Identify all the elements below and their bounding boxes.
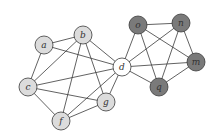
edge-c-g — [28, 87, 106, 102]
edge-f-d — [61, 67, 122, 121]
node-b: b — [74, 26, 92, 44]
node-label: c — [25, 82, 30, 92]
node-a: a — [35, 36, 53, 54]
edge-c-d — [28, 67, 122, 87]
node-label: b — [80, 30, 86, 40]
graph-diagram: abcfgdonmq — [0, 0, 222, 140]
node-g: g — [97, 93, 115, 111]
node-f: f — [52, 112, 70, 130]
edge-m-d — [122, 62, 196, 67]
node-label: o — [135, 20, 141, 30]
node-label: d — [119, 62, 125, 72]
node-label: q — [156, 82, 162, 92]
node-q: q — [150, 78, 168, 96]
nodes-layer: abcfgdonmq — [19, 14, 205, 130]
edge-b-g — [83, 35, 106, 102]
node-label: a — [41, 40, 46, 50]
node-label: n — [178, 18, 184, 28]
node-label: m — [192, 57, 201, 67]
node-d: d — [113, 58, 131, 76]
node-c: c — [19, 78, 37, 96]
node-n: n — [172, 14, 190, 32]
edge-o-m — [138, 25, 196, 62]
node-m: m — [187, 53, 205, 71]
node-o: o — [129, 16, 147, 34]
node-label: g — [103, 97, 109, 107]
edge-a-d — [44, 45, 122, 67]
edge-n-q — [159, 23, 181, 87]
